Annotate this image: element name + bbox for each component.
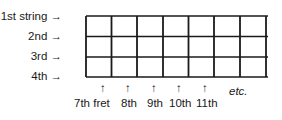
string-label-1: 1st string → xyxy=(1,10,62,22)
up-arrow-icon: ↑ xyxy=(176,82,182,94)
up-arrow-icon: ↑ xyxy=(202,82,208,94)
string-label-3: 3rd → xyxy=(31,50,62,62)
etc-label: etc. xyxy=(229,85,248,97)
fret-label-7: 7th fret xyxy=(74,97,110,109)
fret-label-8: 8th xyxy=(121,97,137,109)
fret-label-11: 11th xyxy=(196,97,218,109)
fret-label-10: 10th xyxy=(169,97,191,109)
right-arrow-icon: → xyxy=(51,30,63,42)
up-arrow-icon: ↑ xyxy=(151,82,157,94)
right-arrow-icon: → xyxy=(51,10,63,22)
right-arrow-icon: → xyxy=(51,50,63,62)
string-label-2: 2nd → xyxy=(28,30,62,42)
up-arrow-icon: ↑ xyxy=(100,82,106,94)
right-arrow-icon: → xyxy=(51,70,63,82)
fret-label-9: 9th xyxy=(147,97,163,109)
up-arrow-icon: ↑ xyxy=(125,82,131,94)
string-label-4: 4th → xyxy=(31,70,62,82)
